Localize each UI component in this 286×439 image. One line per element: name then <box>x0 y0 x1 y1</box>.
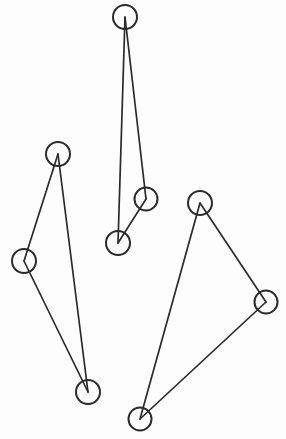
graph-drawing <box>0 0 286 439</box>
node-left-bottom[interactable] <box>76 380 100 404</box>
node-middle-bottom[interactable] <box>106 231 130 255</box>
edge-right-top-to-right-bottom[interactable] <box>140 203 200 419</box>
node-right-top[interactable] <box>188 191 212 215</box>
edge-layer <box>24 17 266 419</box>
node-right-bottom[interactable] <box>129 408 152 431</box>
edge-left-top-to-left-middle[interactable] <box>24 154 58 261</box>
node-left-top[interactable] <box>46 142 70 166</box>
graph-canvas <box>0 0 286 439</box>
node-middle-right[interactable] <box>135 188 158 211</box>
edge-middle-top-to-middle-bottom[interactable] <box>118 17 125 243</box>
edge-middle-top-to-middle-right[interactable] <box>125 17 146 199</box>
edge-left-middle-to-left-bottom[interactable] <box>24 261 88 392</box>
edge-right-top-to-right-middle[interactable] <box>200 203 266 302</box>
node-middle-top[interactable] <box>113 5 137 29</box>
edge-left-top-to-left-bottom[interactable] <box>58 154 88 392</box>
node-layer <box>12 5 278 431</box>
edge-right-middle-to-right-bottom[interactable] <box>140 302 266 419</box>
node-right-middle[interactable] <box>255 291 278 314</box>
node-left-middle[interactable] <box>12 249 36 273</box>
